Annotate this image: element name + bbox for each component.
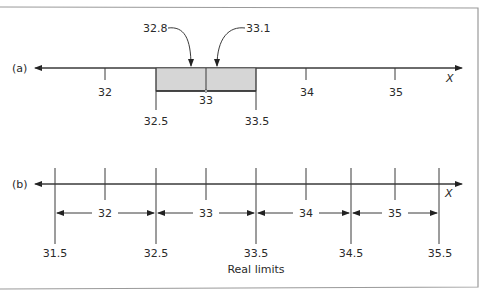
panel-b-label: (b)	[12, 178, 28, 191]
tick-label-32: 32	[98, 86, 112, 99]
interval-label-32: 32	[98, 207, 112, 220]
lower-limit-label: 32.5	[144, 115, 169, 128]
interval-32-dimension: 32	[57, 207, 154, 220]
upper-limit-label: 33.5	[245, 115, 270, 128]
panel-b-x-variable: X	[444, 187, 453, 200]
interval-34-dimension: 34	[258, 207, 349, 220]
center-label-33: 33	[199, 94, 213, 107]
figure-frame	[0, 7, 478, 289]
panel-a: (a) X 32 33 34 35 32.5 33.5 32.8 33.1	[12, 22, 462, 128]
bracket-node	[205, 90, 208, 93]
real-limits-diagram: (a) X 32 33 34 35 32.5 33.5 32.8 33.1 (b…	[0, 0, 488, 294]
real-limit-label-35-5: 35.5	[428, 247, 453, 260]
interval-33-dimension: 33	[158, 207, 254, 220]
interval-label-34: 34	[299, 207, 313, 220]
callout-label-33-1: 33.1	[246, 22, 271, 35]
real-limits-caption: Real limits	[227, 263, 284, 276]
callout-arrow-33-1	[217, 28, 245, 66]
callout-arrow-32-8	[168, 28, 191, 66]
callout-label-32-8: 32.8	[143, 22, 168, 35]
real-limit-label-33-5: 33.5	[244, 247, 269, 260]
interval-label-33: 33	[199, 207, 213, 220]
panel-a-x-variable: X	[445, 72, 454, 85]
tick-label-34: 34	[300, 86, 314, 99]
interval-35-dimension: 35	[353, 207, 437, 220]
real-limit-label-32-5: 32.5	[144, 247, 169, 260]
real-limit-label-31-5: 31.5	[43, 247, 68, 260]
tick-label-35: 35	[389, 86, 403, 99]
panel-b: (b) X 32 33 34	[12, 168, 462, 276]
interval-label-35: 35	[388, 207, 402, 220]
real-limit-label-34-5: 34.5	[339, 247, 364, 260]
panel-a-label: (a)	[12, 62, 27, 75]
